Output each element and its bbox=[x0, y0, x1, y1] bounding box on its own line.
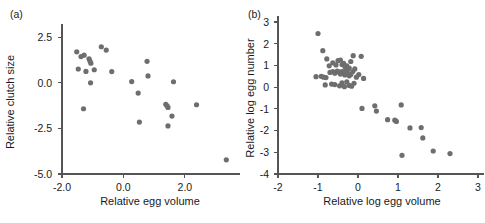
x-tick-label: 0.0 bbox=[116, 181, 131, 193]
data-point bbox=[372, 103, 377, 108]
data-point bbox=[88, 61, 93, 66]
data-point bbox=[399, 153, 404, 158]
data-point bbox=[359, 54, 364, 59]
x-tick-label: 3 bbox=[475, 181, 481, 193]
y-axis-title: Relative log egg number bbox=[244, 38, 256, 158]
x-tick-label: -2.0 bbox=[53, 181, 71, 193]
panel-a-plot: 2.50.0-2.5-5.0-2.00.02.0Relative egg vol… bbox=[0, 0, 243, 223]
data-point bbox=[385, 117, 390, 122]
data-point bbox=[76, 66, 81, 71]
data-point bbox=[165, 105, 170, 110]
data-point bbox=[74, 49, 79, 54]
data-point bbox=[356, 72, 361, 77]
data-point bbox=[352, 66, 357, 71]
y-tick-label: 0 bbox=[263, 81, 269, 93]
data-point bbox=[315, 31, 320, 36]
data-point bbox=[323, 75, 328, 80]
data-point bbox=[224, 157, 229, 162]
data-point bbox=[165, 123, 170, 128]
x-tick-label: -1 bbox=[313, 181, 322, 193]
y-tick-label: -4 bbox=[260, 168, 269, 180]
figure-root: (a) 2.50.0-2.5-5.0-2.00.02.0Relative egg… bbox=[0, 0, 485, 223]
x-axis-title: Relative egg volume bbox=[100, 195, 200, 207]
panel-b: (b) 3210-1-2-3-4-2-10123Relative log egg… bbox=[242, 0, 485, 223]
data-point bbox=[320, 48, 325, 53]
data-point bbox=[324, 56, 329, 61]
x-tick-label: 2 bbox=[435, 181, 441, 193]
data-point bbox=[407, 125, 412, 130]
y-tick-label: -2 bbox=[260, 124, 269, 136]
data-point bbox=[399, 102, 404, 107]
data-point bbox=[359, 106, 364, 111]
data-point bbox=[348, 59, 353, 64]
data-point bbox=[419, 125, 424, 130]
y-tick-label: 0.0 bbox=[37, 77, 52, 89]
data-point bbox=[351, 53, 356, 58]
data-point bbox=[169, 113, 174, 118]
y-axis-title: Relative clutch size bbox=[4, 55, 16, 149]
data-point bbox=[394, 119, 399, 124]
data-point bbox=[313, 74, 318, 79]
x-tick-label: 2.0 bbox=[178, 181, 193, 193]
data-point bbox=[104, 47, 109, 52]
data-point bbox=[137, 119, 142, 124]
y-tick-label: 2.5 bbox=[37, 31, 52, 43]
data-point bbox=[136, 90, 141, 95]
data-point bbox=[92, 67, 97, 72]
data-point bbox=[171, 79, 176, 84]
y-tick-label: 1 bbox=[263, 59, 269, 71]
data-point bbox=[374, 108, 379, 113]
x-axis-title: Relative log egg volume bbox=[323, 195, 440, 207]
data-point bbox=[109, 69, 114, 74]
y-tick-label: 2 bbox=[263, 38, 269, 50]
data-point bbox=[342, 84, 347, 89]
y-tick-label: -1 bbox=[260, 103, 269, 115]
data-point bbox=[361, 76, 366, 81]
x-tick-label: 0 bbox=[355, 181, 361, 193]
data-point bbox=[194, 102, 199, 107]
data-point bbox=[81, 106, 86, 111]
data-point bbox=[144, 59, 149, 64]
data-point bbox=[82, 53, 87, 58]
data-point bbox=[83, 69, 88, 74]
data-point bbox=[145, 73, 150, 78]
data-point bbox=[351, 81, 356, 86]
y-tick-label: 3 bbox=[263, 16, 269, 28]
panel-a: (a) 2.50.0-2.5-5.0-2.00.02.0Relative egg… bbox=[0, 0, 243, 223]
data-point bbox=[447, 151, 452, 156]
data-point bbox=[431, 148, 436, 153]
data-point bbox=[332, 82, 337, 87]
y-tick-label: -3 bbox=[260, 146, 269, 158]
panel-b-plot: 3210-1-2-3-4-2-10123Relative log egg vol… bbox=[242, 0, 485, 223]
data-point bbox=[420, 135, 425, 140]
y-tick-label: -5.0 bbox=[34, 168, 52, 180]
x-tick-label: 1 bbox=[395, 181, 401, 193]
data-point bbox=[99, 44, 104, 49]
y-tick-label: -2.5 bbox=[34, 122, 52, 134]
data-point bbox=[88, 80, 93, 85]
data-point bbox=[323, 82, 328, 87]
x-tick-label: -2 bbox=[273, 181, 282, 193]
data-point bbox=[129, 79, 134, 84]
